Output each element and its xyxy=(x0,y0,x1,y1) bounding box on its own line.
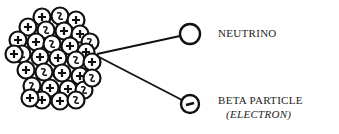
beta-particle-label: BETA PARTICLE xyxy=(218,94,303,106)
nucleus-icon xyxy=(6,8,101,110)
neutrino-path-line xyxy=(97,36,180,54)
beta-path-line xyxy=(97,56,182,100)
beta-decay-diagram: NEUTRINO BETA PARTICLE (ELECTRON) xyxy=(0,0,339,134)
neutrino-circle-icon xyxy=(180,24,200,44)
neutrino-label: NEUTRINO xyxy=(218,27,277,39)
electron-sublabel: (ELECTRON) xyxy=(226,108,291,120)
